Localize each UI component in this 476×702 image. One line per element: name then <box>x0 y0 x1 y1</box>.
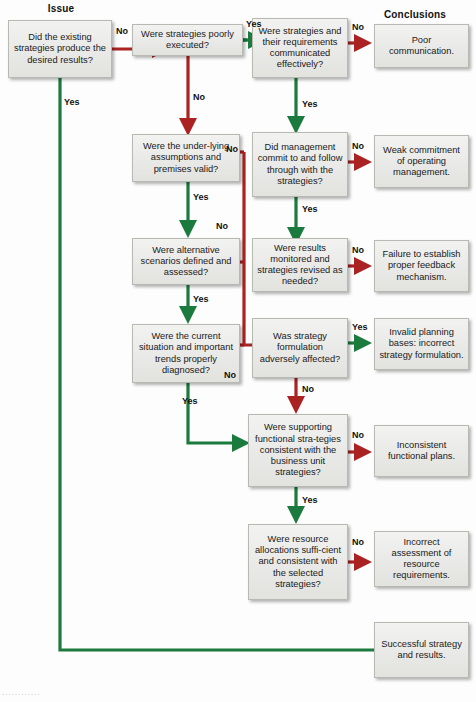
node-q4[interactable]: Were the under-lying assumptions and pre… <box>132 134 240 182</box>
node-c6[interactable]: Incorrect assessment of resource require… <box>374 531 469 587</box>
edge-q6-yes <box>179 285 197 324</box>
node-q1-label: Did the existing strategies produce the … <box>12 32 108 66</box>
node-q8-label: Were the current situation and important… <box>136 331 236 376</box>
node-q6[interactable]: Were alternative scenarios defined and a… <box>132 238 240 285</box>
edge-label-q8-yes: Yes <box>182 396 198 406</box>
edge-label-q8-no: No <box>224 370 236 380</box>
edge-label-q6-no: No <box>216 221 228 231</box>
node-q9-label: Was strategy formulation adversely affec… <box>256 331 344 365</box>
edge-label-q9-no: No <box>302 384 314 394</box>
edge-q3-no <box>348 34 372 52</box>
node-q2[interactable]: Were strategies poorly executed? <box>132 24 243 56</box>
edge-label-q2-no: No <box>193 92 205 102</box>
edge-label-q5-no: No <box>352 141 364 151</box>
edge-q11-no <box>348 553 372 571</box>
edge-label-q1-no: No <box>116 26 128 36</box>
node-q4-label: Were the under-lying assumptions and pre… <box>136 141 236 175</box>
node-q3[interactable]: Were strategies and their requirements c… <box>252 18 348 78</box>
node-q2-label: Were strategies poorly executed? <box>136 29 239 51</box>
node-c1-label: Poor communication. <box>378 35 465 57</box>
node-c5-label: Inconsistent functional plans. <box>378 440 465 462</box>
edge-label-q3-no: No <box>352 22 364 32</box>
edge-q9-yes <box>348 334 372 352</box>
node-q6-label: Were alternative scenarios defined and a… <box>136 245 236 279</box>
edge-label-q3-yes: Yes <box>302 99 318 109</box>
node-q10[interactable]: Were supporting functional stra-tegies c… <box>248 414 348 487</box>
edge-label-q6-yes: Yes <box>193 294 209 304</box>
edge-q5-no <box>348 153 372 171</box>
node-q11-label: Were resource allocations suffi-cient an… <box>252 534 344 590</box>
footer-dot-marks: ............ <box>2 688 41 697</box>
edge-label-q10-yes: Yes <box>302 495 318 505</box>
node-c7[interactable]: Successful strategy and results. <box>374 622 469 678</box>
edge-label-q10-no: No <box>352 430 364 440</box>
edge-label-q1-yes: Yes <box>64 97 80 107</box>
edge-q8-yes <box>188 383 250 452</box>
edge-q10-yes <box>287 487 305 524</box>
edge-label-q5-yes: Yes <box>302 204 318 214</box>
node-c1[interactable]: Poor communication. <box>374 24 469 68</box>
node-q5[interactable]: Did management commit to and follow thro… <box>252 132 348 197</box>
node-c2-label: Weak commitment of operating management. <box>378 145 465 179</box>
node-q11[interactable]: Were resource allocations suffi-cient an… <box>248 524 348 600</box>
node-q9[interactable]: Was strategy formulation adversely affec… <box>252 318 348 378</box>
edge-label-q4-no: No <box>226 144 238 154</box>
edge-q4-yes <box>179 182 197 238</box>
edge-q7-no <box>348 257 372 275</box>
node-c2[interactable]: Weak commitment of operating management. <box>374 135 469 188</box>
node-c6-label: Incorrect assessment of resource require… <box>378 537 465 582</box>
edge-label-q9-yes: Yes <box>352 322 368 332</box>
node-c3[interactable]: Failure to establish proper feedback mec… <box>374 240 469 292</box>
edge-label-q7-no: No <box>352 245 364 255</box>
edge-label-q2-yes: Yes <box>246 19 262 29</box>
node-c5[interactable]: Inconsistent functional plans. <box>374 425 469 477</box>
node-c3-label: Failure to establish proper feedback mec… <box>378 249 465 283</box>
node-c4[interactable]: Invalid planning bases: incorrect strate… <box>374 318 469 370</box>
flowchart-canvas: Issue Conclusions <box>0 0 476 702</box>
node-q3-label: Were strategies and their requirements c… <box>256 26 344 71</box>
node-q1[interactable]: Did the existing strategies produce the … <box>8 20 112 78</box>
edge-label-q11-no: No <box>352 537 364 547</box>
node-c4-label: Invalid planning bases: incorrect strate… <box>378 327 465 361</box>
edge-label-q4-yes: Yes <box>193 192 209 202</box>
node-q7-label: Were results monitored and strategies re… <box>256 243 344 288</box>
node-q10-label: Were supporting functional stra-tegies c… <box>252 422 344 478</box>
node-q5-label: Did management commit to and follow thro… <box>256 142 344 187</box>
edge-q10-no <box>348 443 372 461</box>
node-q7[interactable]: Were results monitored and strategies re… <box>252 238 348 292</box>
node-c7-label: Successful strategy and results. <box>378 639 465 661</box>
